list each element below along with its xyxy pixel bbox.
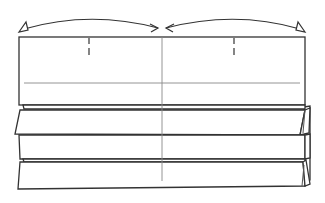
left-fold-arrow bbox=[19, 19, 158, 32]
origami-diagram bbox=[0, 0, 325, 203]
pleat-edge-1 bbox=[23, 105, 305, 109]
pleat-3-fold bbox=[305, 134, 310, 159]
pleat-2 bbox=[15, 110, 305, 135]
open-arrowhead-icon bbox=[150, 24, 158, 32]
open-arrowhead-icon bbox=[166, 24, 174, 32]
hollow-triangle-arrowhead-icon bbox=[19, 22, 28, 32]
pleat-4 bbox=[18, 162, 305, 189]
hollow-triangle-arrowhead-icon bbox=[296, 22, 305, 32]
right-fold-arrow bbox=[166, 19, 305, 32]
pleat-layers bbox=[15, 105, 310, 189]
